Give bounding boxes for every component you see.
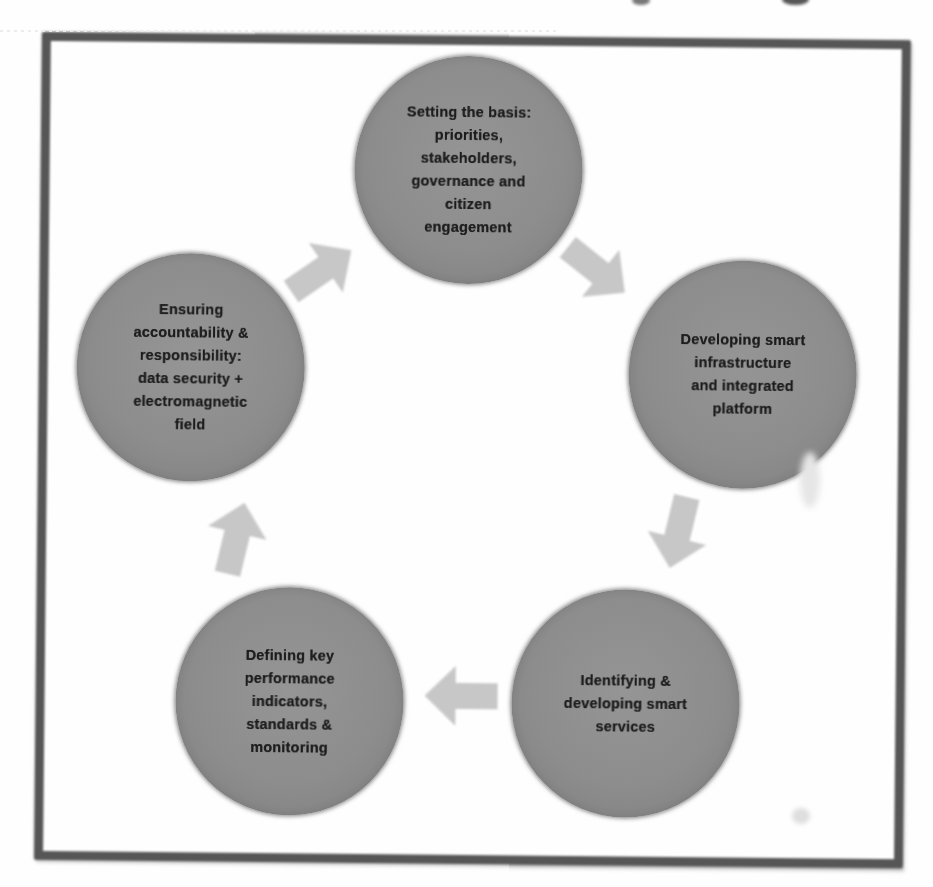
step-label-line: citizen: [406, 192, 531, 216]
step-label-line: data security +: [133, 367, 248, 391]
step-label-line: indicators,: [244, 689, 334, 713]
step-label-line: priorities,: [407, 123, 532, 147]
step-label-setting-the-basis: Setting the basis: priorities, stakehold…: [406, 100, 532, 239]
step-label-line: standards &: [244, 712, 334, 736]
step-label-line: Identifying &: [564, 668, 687, 692]
step-label-line: engagement: [406, 215, 531, 239]
scanned-figure: Setting the basis: priorities, stakehold…: [0, 0, 933, 887]
step-label-line: field: [132, 413, 247, 437]
cycle-arrow-bottom-right-to-bottom-left-icon: [423, 665, 498, 728]
step-circle-setting-the-basis: Setting the basis: priorities, stakehold…: [354, 55, 584, 285]
step-label-line: responsibility:: [133, 344, 248, 368]
step-label-line: services: [564, 714, 687, 738]
step-label-line: monitoring: [244, 735, 334, 759]
step-label-ensuring-accountability: Ensuring accountability & responsibility…: [132, 298, 249, 437]
step-label-line: stakeholders,: [406, 146, 531, 170]
scan-artifact-smudge: [800, 452, 820, 508]
step-label-line: Ensuring: [134, 298, 249, 322]
step-circle-defining-key-performance-indicators: Defining key performance indicators, sta…: [174, 586, 404, 816]
step-label-line: electromagnetic: [133, 390, 248, 414]
step-circle-developing-smart-infrastructure: Developing smart infrastructure and inte…: [628, 260, 858, 490]
step-label-line: accountability &: [133, 321, 248, 345]
scanned-page: Setting the basis: priorities, stakehold…: [0, 0, 933, 887]
step-label-line: platform: [680, 397, 805, 421]
step-label-line: developing smart: [564, 691, 687, 715]
step-circle-ensuring-accountability: Ensuring accountability & responsibility…: [76, 252, 306, 482]
step-label-line: performance: [245, 666, 335, 690]
step-label-line: Developing smart: [680, 328, 805, 352]
step-label-line: and integrated: [680, 374, 805, 398]
step-label-line: governance and: [406, 169, 531, 193]
step-label-developing-smart-infrastructure: Developing smart infrastructure and inte…: [680, 328, 806, 421]
step-circle-identifying-developing-smart-services: Identifying & developing smart services: [510, 588, 740, 818]
step-label-line: infrastructure: [680, 351, 805, 375]
step-label-defining-key-performance-indicators: Defining key performance indicators, sta…: [244, 643, 335, 759]
step-label-identifying-developing-smart-services: Identifying & developing smart services: [564, 668, 688, 738]
step-label-line: Setting the basis:: [407, 100, 532, 124]
scan-artifact-dust-line: [0, 30, 560, 32]
scan-artifact-smudge: [792, 808, 810, 824]
step-label-line: Defining key: [245, 643, 335, 667]
